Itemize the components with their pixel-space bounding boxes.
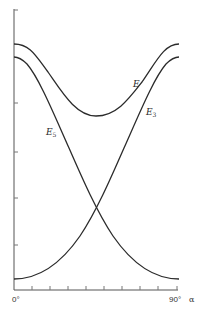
curve-E5	[14, 57, 179, 279]
x-axis-symbol: α	[189, 296, 194, 304]
curve-label-E3-sub: 3	[153, 111, 157, 118]
x-end-label: 90°	[169, 296, 181, 304]
curve-label-E3-main: E	[146, 107, 153, 117]
x-start-label: 0°	[12, 296, 20, 304]
curve-E3	[14, 57, 179, 279]
curve-label-E5: E5	[46, 128, 56, 138]
chart-plot	[0, 0, 203, 313]
curve-label-E5-sub: 5	[53, 131, 57, 138]
curve-label-E: E	[133, 80, 140, 89]
x-ticks	[32, 286, 177, 290]
curve-label-E5-main: E	[46, 127, 53, 137]
curve-label-E-text: E	[133, 79, 140, 89]
curve-E	[14, 44, 179, 116]
y-ticks	[14, 10, 18, 245]
curve-label-E3: E3	[146, 108, 156, 118]
